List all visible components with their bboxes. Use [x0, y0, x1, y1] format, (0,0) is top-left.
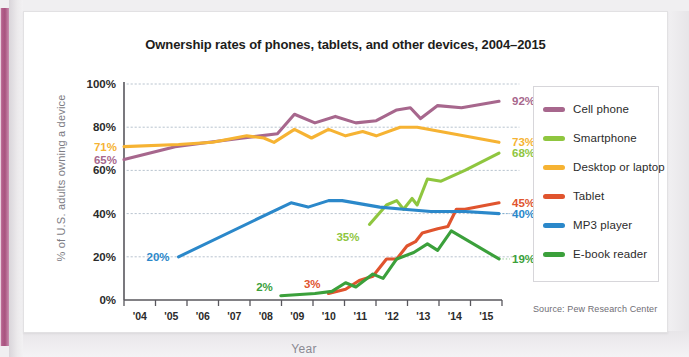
svg-text:92%: 92% [512, 95, 535, 107]
legend-swatch-icon [543, 165, 565, 170]
source-note: Source: Pew Research Center [533, 304, 657, 314]
svg-text:'11: '11 [353, 310, 367, 322]
svg-text:73%: 73% [512, 136, 535, 148]
svg-text:'04: '04 [133, 310, 147, 322]
legend-item-label: Tablet [573, 190, 604, 202]
svg-text:'05: '05 [164, 310, 178, 322]
svg-text:19%: 19% [512, 253, 535, 265]
legend-item-label: Smartphone [573, 132, 637, 144]
legend-swatch-icon [543, 194, 565, 199]
legend-item-cell-phone[interactable]: Cell phone [543, 101, 629, 117]
legend-swatch-icon [543, 107, 565, 112]
legend-item-label: Desktop or laptop [573, 161, 665, 173]
legend-item-e-book-reader[interactable]: E-book reader [543, 246, 647, 262]
svg-text:100%: 100% [87, 78, 116, 90]
y-axis-title: % of U.S. adults owning a device [55, 78, 67, 278]
svg-text:3%: 3% [304, 278, 321, 290]
legend-item-label: MP3 player [573, 219, 632, 231]
svg-text:71%: 71% [94, 141, 117, 153]
svg-text:65%: 65% [94, 154, 117, 166]
legend-item-label: Cell phone [573, 103, 629, 115]
svg-text:80%: 80% [93, 121, 116, 133]
svg-text:'07: '07 [227, 310, 241, 322]
y-axis-tick-labels: 0%20%40%60%80%100% [87, 78, 116, 306]
legend-item-desktop-or-laptop[interactable]: Desktop or laptop [543, 159, 665, 175]
legend-item-tablet[interactable]: Tablet [543, 188, 604, 204]
svg-text:'13: '13 [416, 310, 430, 322]
x-axis-tick-labels: '04'05'06'07'08'09'10'11'12'13'14'15 [133, 310, 494, 322]
svg-text:'10: '10 [322, 310, 336, 322]
svg-text:20%: 20% [147, 251, 170, 263]
svg-text:'08: '08 [259, 310, 273, 322]
svg-text:35%: 35% [336, 231, 359, 243]
page-right-edge [666, 11, 689, 331]
value-annotations: 65%92%68%71%73%45%40%19%35%3%20%2% [94, 95, 535, 292]
axis-lines [124, 82, 502, 300]
legend-swatch-icon [543, 136, 565, 141]
legend-item-label: E-book reader [573, 248, 647, 260]
x-axis-title: Year [124, 342, 484, 356]
page-gutter-shadow [9, 0, 23, 357]
x-axis-ticks [124, 300, 502, 306]
svg-text:'09: '09 [290, 310, 304, 322]
svg-text:'06: '06 [196, 310, 210, 322]
legend-swatch-icon [543, 252, 565, 257]
svg-text:40%: 40% [93, 208, 116, 220]
chart-card: Ownership rates of phones, tablets, and … [23, 11, 668, 333]
gridlines [127, 84, 519, 257]
legend-item-smartphone[interactable]: Smartphone [543, 130, 637, 146]
svg-text:20%: 20% [93, 251, 116, 263]
svg-text:0%: 0% [99, 294, 116, 306]
page-binding-bar [0, 8, 9, 346]
svg-text:40%: 40% [512, 208, 535, 220]
svg-text:'15: '15 [479, 310, 493, 322]
svg-text:60%: 60% [93, 164, 116, 176]
svg-text:'14: '14 [448, 310, 462, 322]
series-lines [124, 101, 499, 295]
legend-item-mp3-player[interactable]: MP3 player [543, 217, 632, 233]
legend: Cell phoneSmartphoneDesktop or laptopTab… [533, 86, 659, 282]
page-background: Ownership rates of phones, tablets, and … [0, 0, 689, 357]
legend-swatch-icon [543, 223, 565, 228]
svg-text:68%: 68% [512, 147, 535, 159]
svg-text:2%: 2% [256, 281, 273, 293]
svg-text:'12: '12 [385, 310, 399, 322]
